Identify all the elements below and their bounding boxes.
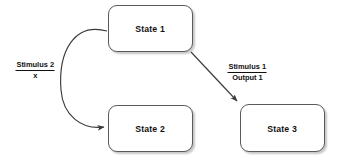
state-diagram-canvas: State 1 State 2 State 3 Stimulus 2 x Sti… <box>0 0 345 163</box>
state-node-state-2[interactable]: State 2 <box>108 105 193 152</box>
edge-label-state1-state2: Stimulus 2 x <box>14 61 56 81</box>
edge-label-output: Output 1 <box>232 73 263 82</box>
edge-label-trigger: Stimulus 1 <box>227 63 266 73</box>
state-node-label: State 3 <box>268 123 298 134</box>
state-node-label: State 2 <box>136 123 166 134</box>
edge-label-output: x <box>33 71 37 80</box>
state-node-state-3[interactable]: State 3 <box>240 104 325 152</box>
edge-label-trigger: Stimulus 2 <box>15 61 54 71</box>
state-node-state-1[interactable]: State 1 <box>108 5 193 52</box>
state-node-label: State 1 <box>136 23 166 34</box>
edge-state1-state2-path <box>61 29 107 127</box>
edge-label-state1-state3: Stimulus 1 Output 1 <box>226 63 268 83</box>
